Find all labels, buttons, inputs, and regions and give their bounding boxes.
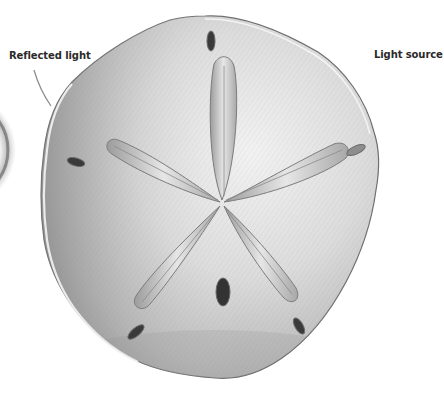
slot-top bbox=[207, 31, 215, 51]
reflected-light-label: Reflected light bbox=[9, 50, 91, 61]
reflected-light-pointer bbox=[34, 70, 51, 106]
slot-center bbox=[216, 278, 230, 306]
illustration-canvas: Reflected light Light source bbox=[0, 0, 444, 400]
light-source-label: Light source bbox=[374, 49, 443, 60]
